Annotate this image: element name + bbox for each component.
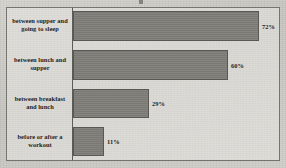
bar-value-label: 11%: [107, 138, 120, 145]
category-label-line2: workout: [9, 141, 71, 149]
bar[interactable]: [73, 89, 149, 118]
category-label-line2: supper: [9, 64, 71, 72]
bar-row: before or after a workout 11%: [7, 124, 279, 162]
bar[interactable]: [73, 50, 228, 80]
bar-row: between supper and going to sleep 72%: [7, 8, 279, 47]
category-label: between lunch and supper: [9, 56, 71, 71]
category-label: between supper and going to sleep: [9, 17, 71, 32]
bar-row: between lunch and supper 60%: [7, 47, 279, 86]
page-artifact-mark: [139, 0, 143, 4]
category-label-line1: between breakfast: [9, 95, 71, 103]
chart-frame: between supper and going to sleep 72% be…: [6, 7, 280, 161]
category-label-line1: between lunch and: [9, 56, 71, 64]
category-label-line1: before or after a: [9, 133, 71, 141]
category-label: before or after a workout: [9, 133, 71, 148]
scanned-chart-page: between supper and going to sleep 72% be…: [0, 0, 286, 168]
plot-area: between supper and going to sleep 72% be…: [7, 8, 279, 160]
category-label: between breakfast and lunch: [9, 95, 71, 110]
category-label-line2: going to sleep: [9, 25, 71, 33]
bar-row: between breakfast and lunch 29%: [7, 86, 279, 124]
category-label-line1: between supper and: [9, 17, 71, 25]
bar-value-label: 72%: [262, 23, 275, 30]
bar[interactable]: [73, 127, 104, 156]
bar-value-label: 60%: [231, 62, 244, 69]
category-label-line2: and lunch: [9, 103, 71, 111]
bar[interactable]: [73, 11, 259, 41]
bar-value-label: 29%: [152, 100, 165, 107]
